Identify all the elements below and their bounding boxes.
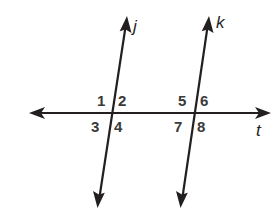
angle-label-7: 7 [174, 118, 182, 135]
angle-label-4: 4 [114, 118, 123, 135]
angle-label-5: 5 [178, 92, 186, 109]
angle-label-6: 6 [200, 92, 208, 109]
angle-label-1: 1 [97, 92, 105, 109]
line-t: t [29, 107, 271, 140]
line-label-t: t [256, 121, 262, 140]
angle-label-3: 3 [91, 118, 99, 135]
line-label-k: k [216, 13, 226, 32]
arrowhead-down-icon [93, 191, 105, 208]
angle-label-2: 2 [118, 92, 126, 109]
parallel-lines-diagram: t j k 1 2 3 4 5 6 7 8 [0, 0, 277, 214]
line-k: k [176, 13, 226, 208]
line-label-j: j [131, 17, 138, 36]
angle-label-8: 8 [197, 118, 205, 135]
